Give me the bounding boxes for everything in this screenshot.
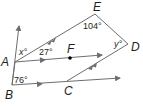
angle-label-27: 27° xyxy=(39,47,53,57)
label-point-e: E xyxy=(93,0,102,14)
geometry-diagram: A B C D E F x° 27° 104° y° 76° xyxy=(0,0,143,107)
double-parallel-mark-cd xyxy=(88,63,97,71)
label-point-d: D xyxy=(131,40,140,54)
diagram-canvas: A B C D E F x° 27° 104° y° 76° xyxy=(0,0,143,107)
ray-af xyxy=(15,55,102,62)
label-point-b: B xyxy=(5,88,13,102)
angle-label-104: 104° xyxy=(83,21,102,31)
angle-label-y: y° xyxy=(113,39,123,49)
point-f xyxy=(68,56,72,60)
angle-label-x: x° xyxy=(18,47,28,57)
label-point-f: F xyxy=(67,42,75,56)
parallel-mark-af xyxy=(40,57,46,63)
segment-dc xyxy=(67,44,128,81)
angle-label-76: 76° xyxy=(14,75,28,85)
double-parallel-mark-ae xyxy=(47,38,56,46)
label-point-c: C xyxy=(64,84,73,98)
label-point-a: A xyxy=(0,55,9,69)
parallel-mark-bc xyxy=(37,81,43,87)
